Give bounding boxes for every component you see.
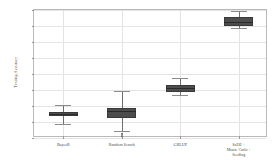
x-axis-tick-label-line: Seeding — [207, 152, 271, 157]
x-axis-tick-label: BayesR — [31, 142, 95, 147]
x-axis-tick — [63, 136, 64, 139]
whisker-cap — [114, 91, 130, 92]
boxplot-box — [107, 108, 136, 119]
y-axis-tick — [32, 42, 35, 43]
x-axis-tick-label: Random Search — [90, 142, 154, 147]
whisker-line — [180, 78, 181, 85]
gridline-horizontal — [34, 74, 266, 75]
gridline-vertical — [180, 10, 181, 136]
boxplot-figure: Testing Accuracy 0.000.050.100.150.200.2… — [0, 0, 274, 163]
y-axis-tick — [32, 138, 35, 139]
x-axis-tick-label-line: Random Search — [90, 142, 154, 147]
gridline-horizontal — [34, 90, 266, 91]
x-axis-tick-label-line: BayesR — [31, 142, 95, 147]
y-axis-tick — [32, 58, 35, 59]
whisker-cap — [172, 78, 188, 79]
y-axis-tick — [32, 90, 35, 91]
gridline-horizontal — [34, 58, 266, 59]
x-axis-tick-label: SaDE +Monte Carlo +Seeding — [207, 142, 271, 158]
whisker-line — [122, 118, 123, 131]
gridline-horizontal — [34, 138, 266, 139]
whisker-cap — [231, 28, 247, 29]
boxplot-median-line — [49, 114, 78, 115]
gridline-horizontal — [34, 26, 266, 27]
boxplot-median-line — [166, 88, 195, 89]
y-axis-title: Testing Accuracy — [11, 12, 21, 132]
x-axis-tick-label-line: GBLUP — [148, 142, 212, 147]
boxplot-median-line — [224, 22, 253, 23]
whisker-line — [122, 91, 123, 108]
x-axis-tick — [180, 136, 181, 139]
y-axis-tick — [32, 106, 35, 107]
y-axis-tick — [32, 74, 35, 75]
whisker-cap — [55, 105, 71, 106]
x-axis-tick — [239, 136, 240, 139]
whisker-line — [63, 116, 64, 123]
y-axis-tick — [32, 122, 35, 123]
y-axis-tick — [32, 26, 35, 27]
whisker-cap — [231, 11, 247, 12]
gridline-horizontal — [34, 42, 266, 43]
y-axis-tick — [32, 10, 35, 11]
whisker-cap — [172, 95, 188, 96]
boxplot-median-line — [107, 111, 136, 112]
plot-area: 0.000.050.100.150.200.250.300.350.40Baye… — [33, 9, 267, 137]
whisker-cap — [55, 124, 71, 125]
x-axis-tick-label: GBLUP — [148, 142, 212, 147]
